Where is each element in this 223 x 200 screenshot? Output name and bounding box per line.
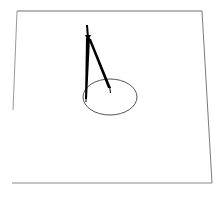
paper-sheet xyxy=(12,11,212,183)
compass-icon xyxy=(85,25,111,102)
illustration: drafting compass drawing a circle on a s… xyxy=(0,0,223,200)
drawing xyxy=(0,0,223,200)
circle-shape xyxy=(83,79,137,115)
